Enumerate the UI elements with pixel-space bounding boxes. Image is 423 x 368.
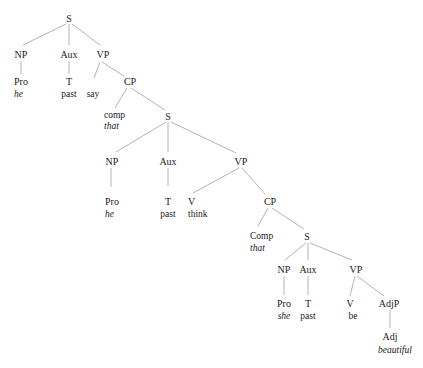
node-cp1: CP bbox=[124, 76, 137, 87]
edge-vp3-v3 bbox=[350, 276, 355, 296]
word-past-3: past bbox=[300, 311, 316, 321]
edge-cp1-s2 bbox=[131, 88, 165, 110]
node-vp3: VP bbox=[350, 264, 363, 275]
tree-nodes: S NP Aux VP Pro he T past say CP comp th… bbox=[14, 13, 412, 355]
tree-edges bbox=[21, 24, 390, 328]
edge-vp2-v2 bbox=[193, 168, 239, 193]
syntax-tree: S NP Aux VP Pro he T past say CP comp th… bbox=[0, 0, 423, 368]
node-comp1: comp bbox=[104, 110, 125, 120]
word-think: think bbox=[188, 209, 208, 219]
edge-vp3-adjp bbox=[357, 276, 384, 296]
node-v2: V bbox=[188, 196, 196, 207]
node-v3: V bbox=[346, 298, 354, 309]
word-that-2: that bbox=[250, 243, 265, 253]
node-vp2: VP bbox=[235, 156, 248, 167]
node-pro2: Pro bbox=[105, 196, 119, 207]
node-np2: NP bbox=[106, 156, 119, 167]
edge-vp1-cp1 bbox=[102, 62, 124, 76]
node-pro3: Pro bbox=[277, 298, 291, 309]
node-s3: S bbox=[304, 231, 310, 242]
node-t1: T bbox=[66, 76, 72, 87]
node-aux1: Aux bbox=[60, 49, 77, 60]
node-comp2: Comp bbox=[250, 231, 273, 241]
edge-s1-np1 bbox=[23, 24, 66, 45]
node-adjp: AdjP bbox=[379, 298, 400, 309]
word-say: say bbox=[87, 89, 100, 99]
node-cp2: CP bbox=[264, 196, 277, 207]
word-he-1: he bbox=[14, 89, 23, 99]
edge-vp1-v1 bbox=[94, 62, 100, 78]
node-aux2: Aux bbox=[159, 156, 176, 167]
node-t3: T bbox=[305, 298, 311, 309]
node-t2: T bbox=[165, 196, 171, 207]
node-s2: S bbox=[165, 111, 171, 122]
edge-s3-vp3 bbox=[310, 243, 352, 260]
edge-s2-np2 bbox=[116, 122, 166, 152]
node-np1: NP bbox=[15, 49, 28, 60]
edge-vp2-cp2 bbox=[242, 168, 265, 194]
edge-s1-vp1 bbox=[72, 24, 100, 45]
edge-s3-np3 bbox=[285, 243, 306, 260]
node-vp1: VP bbox=[97, 49, 110, 60]
node-s1: S bbox=[66, 13, 72, 24]
edge-cp2-s3 bbox=[272, 208, 304, 229]
edge-cp2-comp2 bbox=[258, 208, 268, 226]
node-np3: NP bbox=[278, 264, 291, 275]
word-be: be bbox=[349, 311, 358, 321]
word-past-2: past bbox=[160, 209, 176, 219]
edge-s2-vp2 bbox=[171, 122, 236, 153]
node-aux3: Aux bbox=[299, 264, 316, 275]
node-pro1: Pro bbox=[14, 76, 28, 87]
word-beautiful: beautiful bbox=[378, 345, 412, 355]
edge-cp1-comp1 bbox=[115, 88, 127, 108]
word-past-1: past bbox=[61, 89, 77, 99]
word-he-2: he bbox=[105, 209, 114, 219]
node-adj: Adj bbox=[383, 331, 398, 342]
word-she: she bbox=[278, 311, 291, 321]
word-that-1: that bbox=[104, 121, 119, 131]
